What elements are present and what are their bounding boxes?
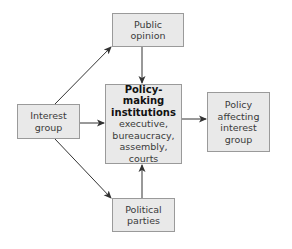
node-label-line: Public (134, 19, 162, 31)
node-public-opinion: Public opinion (112, 13, 184, 47)
node-title-line: Policy-making (106, 84, 181, 107)
node-detail-line: bureaucracy, (112, 130, 174, 142)
node-interest-group: Interest group (17, 104, 80, 139)
arrow-interest-to-public (55, 47, 111, 104)
node-detail-line: courts (129, 153, 159, 165)
arrow-interest-to-parties (55, 139, 111, 198)
node-title-line: institutions (111, 107, 176, 119)
node-policy-making-institutions: Policy-making institutions executive, bu… (105, 84, 182, 164)
node-label-line: opinion (131, 30, 166, 42)
node-label-line: group (35, 122, 63, 134)
node-label-line: group (225, 134, 253, 146)
node-label-line: Policy (225, 99, 252, 111)
node-label-line: Political (125, 204, 162, 216)
node-policy-affecting-interest-group: Policy affecting interest group (207, 92, 270, 152)
node-detail-line: assembly, (119, 141, 167, 153)
node-label-line: affecting (218, 111, 260, 123)
node-detail-line: executive, (119, 118, 168, 130)
node-label-line: interest (220, 122, 256, 134)
node-label-line: Interest (30, 110, 67, 122)
node-political-parties: Political parties (112, 198, 175, 232)
node-label-line: parties (127, 215, 160, 227)
